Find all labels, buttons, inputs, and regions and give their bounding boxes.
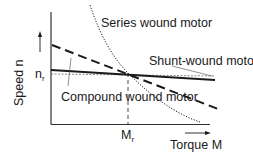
y-axis-label: Speed n <box>12 59 26 106</box>
rated-speed-symbol: n <box>35 67 42 81</box>
rated-torque-symbol: M <box>121 128 131 142</box>
shunt-wound-label: Shunt-wound motor <box>149 54 253 68</box>
x-axis-label: Torque M <box>170 138 222 152</box>
compound-wound-label: Compound wound motor <box>61 90 198 104</box>
shunt-wound-curve <box>51 70 215 80</box>
rated-torque-subscript: r <box>131 135 134 144</box>
rated-speed-marker: nr <box>35 67 45 83</box>
motor-characteristics-diagram: Series wound motor Shunt-wound motor Com… <box>0 0 253 160</box>
rated-torque-marker: Mr <box>121 128 134 144</box>
rated-speed-subscript: r <box>42 74 45 83</box>
series-wound-label: Series wound motor <box>101 16 212 30</box>
torque-arrow-icon <box>205 131 211 135</box>
speed-arrow-icon <box>38 31 42 37</box>
